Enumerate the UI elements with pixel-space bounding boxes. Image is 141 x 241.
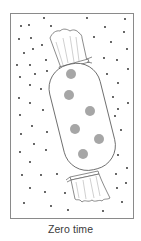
bottom-wrapper-twist — [66, 171, 110, 202]
candy-illustration — [0, 0, 141, 241]
figure-caption: Zero time — [0, 223, 141, 235]
